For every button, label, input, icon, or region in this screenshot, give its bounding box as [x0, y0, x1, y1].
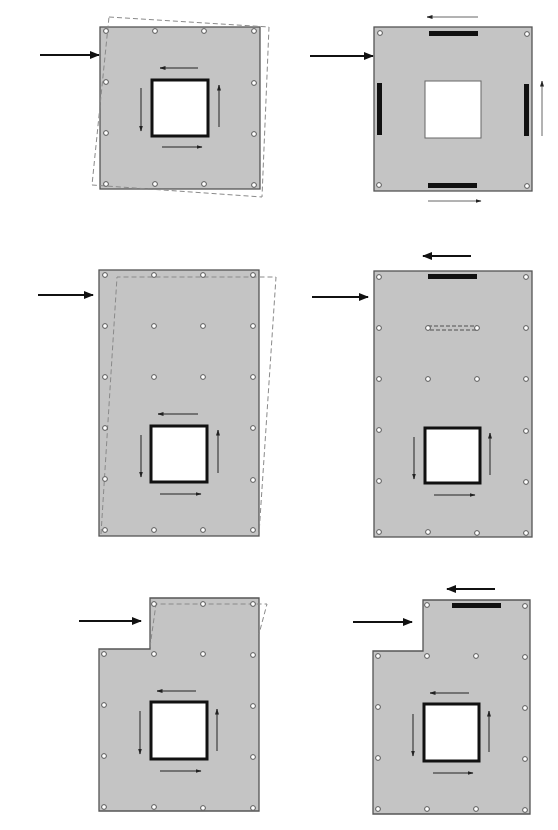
panel-a [40, 17, 269, 197]
opening [151, 426, 207, 482]
opening [425, 428, 480, 483]
opening [152, 80, 208, 136]
panel-e [79, 598, 267, 811]
opening [151, 702, 207, 759]
shear-panel-diagram [0, 0, 558, 830]
chord-bar-right [524, 84, 529, 136]
collector-bar-top [428, 274, 477, 279]
collector-bar-top [452, 603, 501, 608]
panel-c [38, 270, 276, 536]
panel-f [353, 589, 530, 814]
panel-d [312, 256, 532, 537]
opening [425, 81, 481, 138]
collector-bar-top [429, 31, 478, 36]
panel-b [310, 17, 542, 201]
chord-bar-left [377, 83, 382, 135]
plate [374, 271, 532, 537]
plate [99, 270, 259, 536]
opening [424, 704, 479, 761]
collector-bar-bottom [428, 183, 477, 188]
